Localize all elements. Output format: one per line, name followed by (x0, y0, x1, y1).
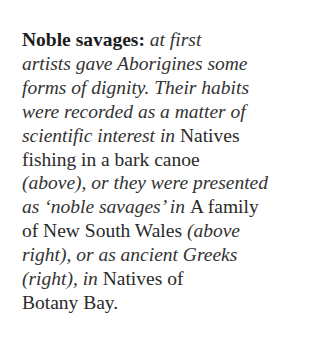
caption-text: artists gave Aborigines some (22, 53, 248, 74)
artwork-title: fishing in a bark canoe (22, 149, 200, 170)
caption-line-5: scientific interest in Natives (22, 124, 312, 148)
caption-text: (right), in (22, 268, 103, 289)
caption-line-9: of New South Wales (above (22, 219, 312, 243)
caption-line-2: artists gave Aborigines some (22, 52, 312, 76)
caption-text: right), or as ancient Greeks (22, 244, 237, 265)
caption-text: (above (187, 220, 240, 241)
caption-line-11: (right), in Natives of (22, 267, 312, 291)
caption-line-10: right), or as ancient Greeks (22, 243, 312, 267)
caption-text: at first (150, 29, 201, 50)
caption-line-4: were recorded as a matter of (22, 100, 312, 124)
artwork-title: Natives of (103, 268, 184, 289)
caption-text: (above), or they were presented (22, 172, 268, 193)
caption-line-8: as ‘noble savages’ in A family (22, 195, 312, 219)
caption-line-6: fishing in a bark canoe (22, 148, 312, 172)
caption-line-3: forms of dignity. Their habits (22, 76, 312, 100)
caption-line-7: (above), or they were presented (22, 171, 312, 195)
artwork-title: of New South Wales (22, 220, 187, 241)
caption-text: were recorded as a matter of (22, 101, 246, 122)
caption-text: as ‘noble savages’ in (22, 196, 190, 217)
artwork-title: A family (190, 196, 259, 217)
caption-line-12: Botany Bay. (22, 291, 312, 315)
artwork-title: Botany Bay. (22, 292, 118, 313)
caption-heading: Noble savages: (22, 29, 150, 50)
figure-caption: Noble savages: at first artists gave Abo… (22, 28, 312, 315)
caption-text: forms of dignity. Their habits (22, 77, 249, 98)
caption-line-1: Noble savages: at first (22, 28, 312, 52)
caption-text: scientific interest in (22, 125, 180, 146)
artwork-title: Natives (180, 125, 240, 146)
